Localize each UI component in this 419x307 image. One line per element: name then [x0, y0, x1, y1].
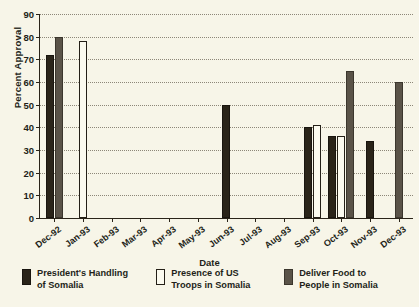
bar-group [40, 14, 69, 218]
bar-group-container [40, 14, 413, 218]
x-axis-tick-mark [140, 218, 141, 222]
legend-swatch-gray-icon [284, 269, 293, 285]
bar [304, 127, 312, 218]
bar-group [241, 14, 270, 218]
bar-group [126, 14, 155, 218]
y-axis-tick-label: 90 [23, 9, 34, 20]
bar [79, 41, 87, 218]
legend-label-us-troops-presence: Presence of US Troops in Somalia [171, 268, 250, 291]
bar [366, 141, 374, 218]
legend-label-deliver-food: Deliver Food to People in Somalia [299, 268, 378, 291]
bar-group [356, 14, 385, 218]
bar-group [155, 14, 184, 218]
bar-group [69, 14, 98, 218]
legend-swatch-white-icon [156, 269, 165, 285]
bar [337, 136, 345, 218]
bar [395, 82, 403, 218]
bar [313, 125, 321, 218]
bar [55, 37, 63, 218]
x-axis-tick-mark [399, 218, 400, 222]
x-axis-tick-mark [255, 218, 256, 222]
bar-chart: Percent Approval 0102030405060708090 Dec… [0, 0, 419, 307]
x-axis-tick-mark [313, 218, 314, 222]
plot-area: 0102030405060708090 [39, 14, 413, 219]
legend-label-line2: Troops in Somalia [171, 280, 250, 290]
x-axis-tick-mark [198, 218, 199, 222]
bar-group [212, 14, 241, 218]
x-axis-title: Date [0, 257, 419, 268]
legend-item-us-troops-presence: Presence of US Troops in Somalia [156, 268, 284, 291]
y-axis-tick-label: 10 [23, 190, 34, 201]
bar-group [298, 14, 327, 218]
y-axis-title: Percent Approval [12, 3, 23, 133]
chart-legend: President's Handling of Somalia Presence… [22, 268, 414, 291]
x-axis-tick-mark [112, 218, 113, 222]
x-axis-tick-mark [169, 218, 170, 222]
bar [222, 105, 230, 218]
bar [346, 71, 354, 218]
legend-label-line1: Deliver Food to [299, 268, 366, 278]
bar-group [97, 14, 126, 218]
y-axis-tick-label: 40 [23, 122, 34, 133]
x-axis-tick-mark [284, 218, 285, 222]
y-axis-tick-label: 20 [23, 167, 34, 178]
bar-group [327, 14, 356, 218]
legend-swatch-black-icon [22, 269, 31, 285]
bar [46, 55, 54, 218]
bar-group [270, 14, 299, 218]
legend-label-line2: People in Somalia [299, 280, 378, 290]
bar [328, 136, 336, 218]
legend-item-presidents-handling: President's Handling of Somalia [22, 268, 156, 291]
legend-label-line2: of Somalia [37, 280, 83, 290]
legend-label-line1: Presence of US [171, 268, 238, 278]
legend-label-line1: President's Handling [37, 268, 128, 278]
y-axis-tick-label: 60 [23, 77, 34, 88]
y-axis-tick-label: 70 [23, 54, 34, 65]
x-axis-tick-mark [54, 218, 55, 222]
y-axis-tick-label: 30 [23, 145, 34, 156]
x-axis-tick-mark [370, 218, 371, 222]
y-axis-tick-label: 0 [29, 213, 34, 224]
legend-label-presidents-handling: President's Handling of Somalia [37, 268, 128, 291]
y-axis-tick-label: 80 [23, 31, 34, 42]
y-axis-tick-mark [36, 218, 40, 219]
bar-group [183, 14, 212, 218]
x-axis-tick-mark [341, 218, 342, 222]
x-axis-tick-mark [83, 218, 84, 222]
y-axis-tick-label: 50 [23, 99, 34, 110]
legend-item-deliver-food: Deliver Food to People in Somalia [284, 268, 414, 291]
bar-group [384, 14, 413, 218]
x-axis-tick-mark [227, 218, 228, 222]
